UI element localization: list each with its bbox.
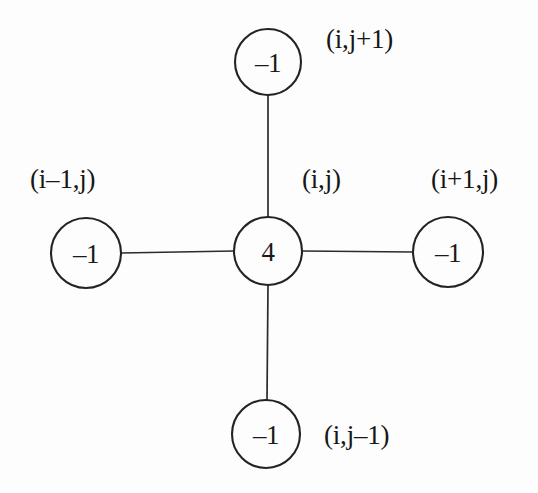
node-value-center: 4 <box>261 237 275 267</box>
coord-label-right: (i+1,j) <box>431 166 498 193</box>
node-value-top: –1 <box>254 48 281 78</box>
coord-label-left: (i–1,j) <box>30 166 95 193</box>
node-value-bottom: –1 <box>252 420 279 450</box>
stencil-graphic: –1 –1 4 –1 –1 <box>0 0 538 493</box>
edge-center-to-left <box>121 251 234 253</box>
coord-label-center: (i,j) <box>302 166 341 193</box>
stencil-figure: –1 –1 4 –1 –1 (i,j+1) (i–1,j) (i,j) (i+1… <box>0 0 538 493</box>
edge-center-to-bottom <box>267 285 268 400</box>
coord-label-bottom: (i,j–1) <box>324 422 389 449</box>
node-value-right: –1 <box>434 238 461 268</box>
coord-label-top: (i,j+1) <box>326 26 393 53</box>
node-value-left: –1 <box>72 239 99 269</box>
edge-center-to-right <box>302 251 413 252</box>
